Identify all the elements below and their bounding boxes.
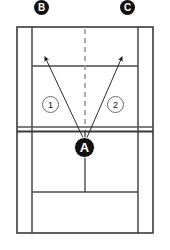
tennis-court-graphic: [0, 0, 170, 250]
player-badge-a: A: [74, 137, 95, 158]
shot-marker-2: 2: [107, 96, 124, 113]
shot-marker-1: 1: [42, 96, 59, 113]
target-badge-b: B: [34, 0, 49, 15]
target-badge-c: C: [120, 0, 135, 15]
diagram-canvas: B C 1 2 A: [0, 0, 170, 250]
